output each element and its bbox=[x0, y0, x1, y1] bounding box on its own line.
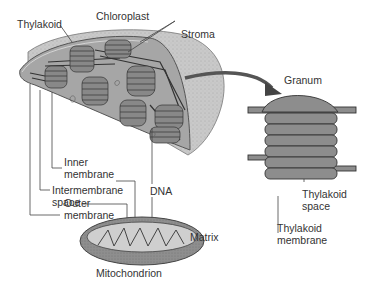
label-thylakoid-membrane-line1: Thylakoid bbox=[277, 222, 327, 234]
label-thylakoid-space-line2: space bbox=[302, 200, 347, 212]
label-granum: Granum bbox=[284, 74, 322, 86]
label-inner-membrane-line2: membrane bbox=[64, 168, 114, 180]
label-chloroplast: Chloroplast bbox=[96, 10, 149, 22]
chloroplast bbox=[20, 30, 282, 155]
label-stroma: Stroma bbox=[181, 28, 215, 40]
label-inner-membrane-line1: Inner bbox=[64, 156, 114, 168]
label-mitochondrion: Mitochondrion bbox=[96, 267, 162, 279]
label-thylakoid: Thylakoid bbox=[17, 18, 62, 30]
label-thylakoid-space: Thylakoid space bbox=[302, 188, 347, 212]
label-matrix: Matrix bbox=[190, 231, 219, 243]
label-dna: DNA bbox=[150, 185, 172, 197]
label-thylakoid-space-line1: Thylakoid bbox=[302, 188, 347, 200]
label-outer-membrane-line1: Outer bbox=[64, 197, 114, 209]
label-outer-membrane-line2: membrane bbox=[64, 209, 114, 221]
label-outer-membrane: Outer membrane bbox=[64, 197, 114, 221]
label-thylakoid-membrane-line2: membrane bbox=[277, 234, 327, 246]
label-thylakoid-membrane: Thylakoid membrane bbox=[277, 222, 327, 246]
granum bbox=[248, 96, 356, 180]
label-inner-membrane: Inner membrane bbox=[64, 156, 114, 180]
mitochondrion bbox=[80, 217, 204, 265]
label-intermembrane-line1: Intermembrane bbox=[52, 184, 123, 196]
